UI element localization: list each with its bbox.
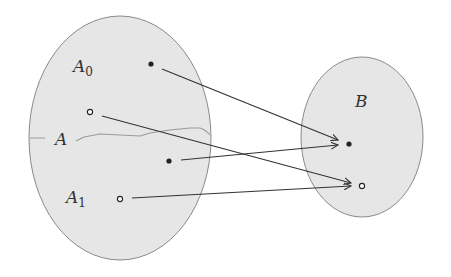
label-b: B [354, 91, 368, 111]
set-mapping-diagram: A0 A A1 B [0, 0, 451, 277]
set-b-ellipse [301, 57, 423, 217]
point-a2-filled [166, 158, 171, 163]
point-a3-hollow [117, 196, 122, 201]
label-a: A [53, 129, 67, 149]
point-b0-filled [346, 141, 351, 146]
point-a1-hollow [87, 109, 92, 114]
point-a0-filled [148, 61, 153, 66]
point-b1-hollow [359, 183, 364, 188]
